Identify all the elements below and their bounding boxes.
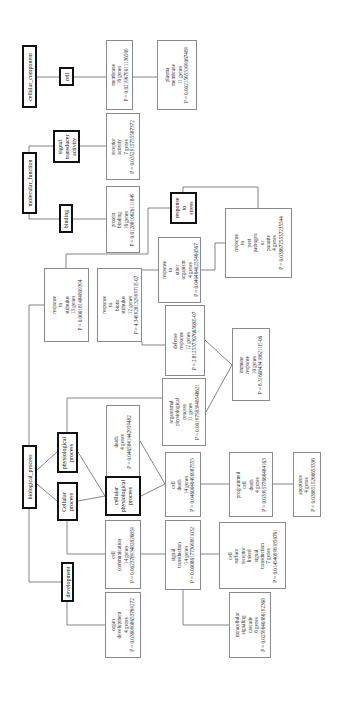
label-line: cellular_component bbox=[26, 53, 33, 101]
p-value: P = 0.00197583948548621 bbox=[194, 384, 200, 440]
label-line: physiological bbox=[120, 480, 127, 512]
node-plasma-membrane: plasmamembrane11 genesP = 0.002156551690… bbox=[157, 40, 197, 110]
label-line: signal bbox=[253, 529, 259, 583]
label-line: receptor bbox=[240, 529, 246, 583]
p-value: P = 0.0128810620111849 bbox=[129, 193, 135, 246]
node-cell-surface-receptor: cellsurfacereceptorlinkedsignaltransduct… bbox=[219, 522, 286, 589]
label-line: parasite bbox=[265, 216, 271, 270]
label-line: other bbox=[173, 243, 179, 297]
edge bbox=[206, 365, 232, 412]
edge bbox=[37, 484, 57, 501]
p-value: P = 0.0339577666484163 bbox=[261, 458, 267, 512]
label-line: organism bbox=[180, 243, 186, 297]
node-label: signaltransduceractivity bbox=[56, 134, 76, 159]
node-cellular-process: Cellularprocess bbox=[57, 482, 78, 521]
node-molecular-function: molecular_function bbox=[22, 152, 37, 214]
label-line: molecular_function bbox=[26, 160, 33, 207]
node-label: apoptosis4 genesP = 0.0388515266653336 bbox=[297, 458, 316, 512]
p-value: P = 0.0352915755587372 bbox=[129, 120, 135, 174]
label-line: to bbox=[180, 198, 187, 219]
p-value: P = 2.81253730766568E-07 bbox=[191, 311, 197, 370]
node-apoptosis: apoptosis4 genesP = 0.0388515266653336 bbox=[293, 452, 321, 517]
node-label: molecular_function bbox=[26, 160, 33, 207]
label-line: to bbox=[57, 279, 63, 330]
node-label: binding bbox=[63, 209, 70, 227]
node-label: intracellularsignalingcascade6 genesP = … bbox=[234, 598, 266, 652]
label-line: stimulus bbox=[63, 279, 69, 330]
node-label: cellular_component bbox=[26, 53, 33, 101]
p-value: P = 0.00086177309891032 bbox=[189, 527, 195, 583]
edge bbox=[29, 305, 44, 445]
label-line: response bbox=[100, 276, 106, 335]
edge bbox=[67, 521, 105, 554]
label-line: to bbox=[167, 243, 173, 297]
node-label: defenseresponse12 genesP = 2.81253730766… bbox=[172, 311, 198, 370]
node-label: membrane16 genesP = 0.0219679011136509 bbox=[110, 48, 129, 101]
p-value: P = 8.31608434186211E-06 bbox=[257, 335, 263, 393]
edge bbox=[78, 452, 105, 496]
node-death: death4 genesP = 0.0465841442959482 bbox=[106, 405, 140, 478]
node-response-to-other-organism: responsetootherorganism4 genesP = 0.0404… bbox=[158, 237, 201, 303]
node-label: development bbox=[64, 567, 71, 598]
label-line: development bbox=[64, 567, 71, 598]
label-line: 12 genes bbox=[126, 276, 132, 335]
label-line: 16 genes bbox=[116, 48, 122, 101]
p-value: P = 0.0380908653769272 bbox=[129, 598, 135, 652]
node-cell-communication: cellcommunication14 genesP = 0.002378934… bbox=[105, 520, 141, 589]
p-value: P = 0.0219679011136509 bbox=[123, 48, 129, 101]
label-line: pathogen bbox=[252, 216, 258, 270]
label-line: response bbox=[173, 198, 180, 219]
label-line: 7 genes bbox=[265, 529, 271, 583]
node-signal-transducer-activity: signaltransduceractivity bbox=[53, 130, 80, 163]
label-line: surface bbox=[233, 529, 239, 583]
label-line: 4 genes bbox=[186, 243, 192, 297]
node-response-to-stimulus: responsetostimulus13 genesP = 0.00018148… bbox=[44, 268, 89, 342]
node-physiological-process: physiologicalprocess bbox=[57, 432, 78, 473]
edge bbox=[37, 452, 57, 470]
node-cellular-physiological-process: cellularphysiologicalprocess bbox=[105, 476, 141, 516]
node-label: plasmamembrane11 genesP = 0.002156551690… bbox=[164, 47, 190, 103]
label-line: transducer bbox=[63, 134, 70, 159]
edge bbox=[201, 243, 225, 270]
edge bbox=[78, 496, 105, 501]
label-line: process bbox=[68, 436, 75, 468]
label-line: linked bbox=[246, 529, 252, 583]
p-value: P = 0.0460040490987555 bbox=[189, 458, 195, 512]
node-label: responsetopestpathogenorparasite4 genesP… bbox=[233, 216, 284, 270]
node-response-to-stress: responsetostress bbox=[170, 192, 197, 224]
p-value: P = 0.000181484809394 bbox=[76, 279, 82, 330]
node-label: signaltransduction14 genesP = 0.00086177… bbox=[170, 527, 196, 583]
label-line: biotic bbox=[113, 276, 119, 335]
edge bbox=[183, 590, 229, 625]
p-value: P = 0.0386725537235544 bbox=[278, 216, 284, 270]
label-line: cell bbox=[227, 529, 233, 583]
label-line: membrane bbox=[110, 48, 116, 101]
node-immune-response: immuneresponse10 genesP = 8.316084341862… bbox=[232, 328, 270, 401]
edge bbox=[142, 342, 165, 345]
node-label: immuneresponse10 genesP = 8.316084341862… bbox=[238, 335, 264, 393]
label-line: response bbox=[233, 216, 239, 270]
p-value: P = 4.34992813299971E-07 bbox=[132, 276, 138, 335]
node-label: cellcommunication14 genesP = 0.002378934… bbox=[110, 526, 136, 582]
p-value: P = 0.0404640255460567 bbox=[192, 243, 198, 297]
edge bbox=[141, 484, 165, 496]
node-cell-death: celldeath14 genesP = 0.0460040490987555 bbox=[165, 452, 201, 517]
edge bbox=[140, 441, 165, 484]
node-label: programmedcelldeath4 genesP = 0.03395776… bbox=[235, 458, 267, 512]
node-label: proteinbinding16 genesP = 0.012881062011… bbox=[110, 193, 136, 246]
edge bbox=[29, 214, 59, 219]
label-line: response bbox=[50, 279, 56, 330]
label-line: process bbox=[68, 492, 75, 511]
node-receptor-activity: receptoractivity7 genesP = 0.03529157555… bbox=[106, 113, 140, 180]
label-line: Cellular bbox=[61, 492, 68, 511]
label-line: activity bbox=[70, 134, 77, 159]
p-value: P = 0.00215655169067489 bbox=[183, 47, 189, 103]
p-value: P = 0.0388515266653336 bbox=[310, 458, 316, 512]
p-value: P = 0.0259640386192368 bbox=[260, 598, 266, 652]
label-line: pest bbox=[246, 216, 252, 270]
node-label: biological_process bbox=[26, 455, 33, 500]
node-label: cellsurfacereceptorlinkedsignaltransduct… bbox=[227, 529, 278, 583]
node-label: celldeath14 genesP = 0.0460040490987555 bbox=[170, 458, 196, 512]
node-label: receptoractivity7 genesP = 0.03529157555… bbox=[110, 120, 136, 174]
edge bbox=[67, 602, 105, 625]
